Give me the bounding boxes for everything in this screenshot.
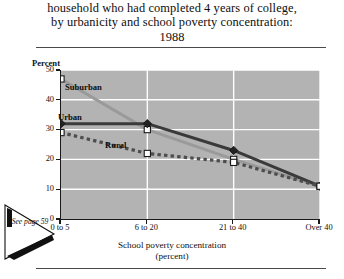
y-tick-mark	[56, 69, 60, 70]
bottom-divider-rule	[36, 268, 326, 269]
y-tick-label: 50	[32, 65, 54, 74]
x-tick-label: Over 40	[305, 223, 332, 232]
y-tick-label: 20	[32, 154, 54, 163]
y-tick-mark	[56, 159, 60, 160]
y-tick-mark	[56, 189, 60, 190]
x-axis-title-main: School poverty concentration	[118, 240, 226, 250]
x-tick-label: 6 to 20	[135, 223, 158, 232]
title-divider-rule	[36, 47, 326, 48]
title-line-2: by urbanicity and school poverty concent…	[0, 15, 344, 29]
series-label-urban: Urban	[58, 112, 82, 122]
series-label-suburban: Suburban	[65, 82, 102, 92]
x-tick-mark	[318, 220, 319, 224]
y-tick-label: 40	[32, 95, 54, 104]
title-line-3: 1988	[0, 30, 344, 44]
see-page-arrow-icon	[2, 196, 64, 262]
x-tick-mark	[232, 220, 233, 224]
series-label-rural: Rural	[105, 140, 126, 150]
y-tick-label: 30	[32, 124, 54, 133]
chart-title: household who had completed 4 years of c…	[0, 0, 344, 44]
x-tick-label: 21 to 40	[219, 223, 246, 232]
see-page-label: See page 59	[11, 218, 49, 227]
plot-svg	[61, 70, 320, 219]
plot-area	[60, 70, 320, 220]
title-line-1: household who had completed 4 years of c…	[0, 1, 344, 15]
y-tick-mark	[56, 129, 60, 130]
x-tick-mark	[146, 220, 147, 224]
y-tick-label: 10	[32, 184, 54, 193]
see-label: See	[12, 217, 23, 226]
y-tick-mark	[56, 99, 60, 100]
page-label: page 59	[24, 217, 48, 226]
